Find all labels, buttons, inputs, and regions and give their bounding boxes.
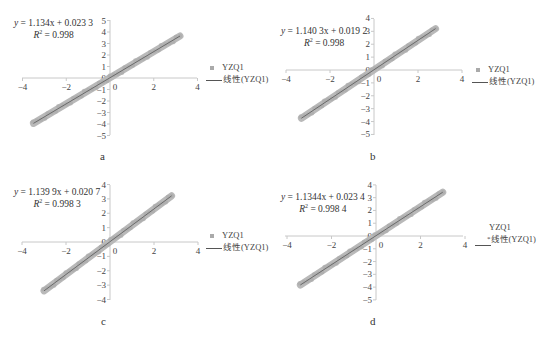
y-tick-label: 3 bbox=[368, 193, 373, 203]
regression-equation-d: y = 1.1344x + 0.023 4 R2 = 0.998 4 bbox=[281, 191, 365, 215]
x-tick-label: −2 bbox=[327, 240, 337, 250]
trendline-icon bbox=[475, 245, 491, 246]
x-tick-label: −4 bbox=[282, 240, 292, 250]
y-tick-label: 2 bbox=[368, 205, 373, 215]
x-tick-label: 4 bbox=[463, 240, 468, 250]
y-tick-label: −2 bbox=[362, 257, 372, 267]
y-tick-label: 4 bbox=[368, 180, 373, 190]
y-tick-label: −4 bbox=[362, 282, 372, 292]
panel-label-d: d bbox=[370, 315, 376, 327]
x-tick-label: 2 bbox=[418, 240, 423, 250]
legend-d: YZQ1 *线性(YZQ1) bbox=[475, 221, 536, 251]
y-tick-label: 1 bbox=[368, 218, 373, 228]
y-tick-label: −5 bbox=[362, 295, 372, 305]
y-tick-label: −3 bbox=[362, 269, 372, 279]
chart-plot-d: −4−202443210−1−2−3−4−5 bbox=[0, 0, 546, 343]
x-tick-label: 0 bbox=[379, 240, 384, 250]
chart-panel-d: −4−202443210−1−2−3−4−5 y = 1.1344x + 0.0… bbox=[0, 0, 546, 343]
